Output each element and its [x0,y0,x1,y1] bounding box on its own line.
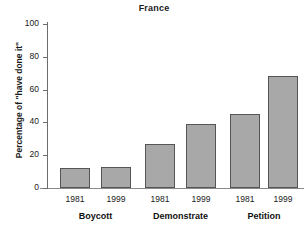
y-axis-tick-label: 80 [30,51,39,61]
x-axis-tick-label: 1999 [186,194,216,204]
x-axis-group-label: Demonstrate [145,211,216,221]
x-axis-group-label: Petition [230,211,298,221]
x-axis-tick-label: 1981 [145,194,175,204]
bar [186,124,216,188]
y-axis-tick: 60 [0,90,48,91]
y-axis-tick-label: 0 [34,182,39,192]
x-axis-group-label: Boycott [60,211,131,221]
y-axis-tick-mark [43,188,48,189]
bar [60,168,90,188]
x-axis-tick-label: 1981 [230,194,260,204]
y-axis-tick: 0 [0,188,48,189]
y-axis-tick-label: 40 [30,116,39,126]
bar [268,76,298,188]
y-axis-tick: 20 [0,155,48,156]
y-axis-tick: 40 [0,122,48,123]
bar [101,167,131,188]
plot-area [48,24,302,188]
y-axis-tick-label: 100 [25,18,39,28]
x-axis-tick-label: 1981 [60,194,90,204]
y-axis-tick: 100 [0,24,48,25]
chart-title: France [0,3,308,13]
bar [145,144,175,188]
y-axis-label: Percentage of "have done it" [14,15,24,185]
y-axis-tick: 80 [0,57,48,58]
y-axis-tick-label: 20 [30,149,39,159]
chart-figure: France Percentage of "have done it" 0204… [0,0,308,234]
y-axis-tick-label: 60 [30,84,39,94]
x-axis-line [40,188,304,189]
x-axis-tick-label: 1999 [268,194,298,204]
bar [230,114,260,188]
x-axis-tick-label: 1999 [101,194,131,204]
